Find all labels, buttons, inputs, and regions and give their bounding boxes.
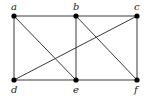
node-e [73, 77, 78, 82]
node-label-b: b [73, 1, 79, 12]
node-f [134, 77, 139, 82]
node-b [73, 13, 78, 18]
edge-b-f [76, 16, 137, 80]
node-label-e: e [73, 84, 79, 95]
edges [14, 16, 137, 80]
node-label-d: d [11, 84, 17, 95]
graph-diagram: a b c d e f [0, 0, 147, 96]
node-c [134, 13, 139, 18]
node-a [11, 13, 16, 18]
edge-a-e [14, 16, 76, 80]
node-label-a: a [11, 1, 17, 12]
node-d [11, 77, 16, 82]
node-label-c: c [134, 1, 140, 12]
node-label-f: f [133, 84, 140, 95]
